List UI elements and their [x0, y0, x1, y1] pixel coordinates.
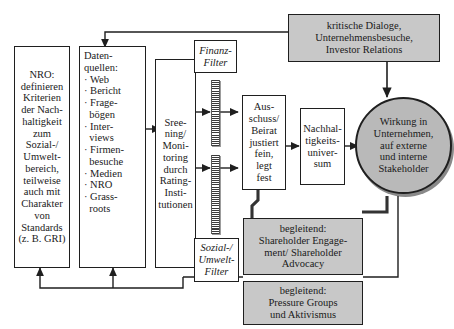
- node-datenquellen-line-0: Daten-: [84, 50, 113, 62]
- node-nro-line-1: definieren: [21, 81, 64, 93]
- sozial-umwelt-filter-bar: [211, 155, 220, 234]
- node-nro-line-5: zum: [33, 128, 51, 140]
- node-datenquellen-line-5: bögen: [84, 109, 115, 121]
- node-finanz-filter-line-0: Finanz-: [199, 45, 232, 57]
- node-universum-line-0: Nachhal-: [303, 123, 341, 135]
- node-nro-line-8: bereich,: [25, 163, 59, 175]
- node-ausschuss-line-2: Beirat: [251, 125, 277, 137]
- node-sozial-filter-line-0: Sozial-/: [200, 242, 232, 254]
- node-sozial-filter-line-1: Umwelt-: [198, 254, 234, 266]
- node-ausschuss-beirat: Aus- schuss/ Beirat justiert fein, legt …: [242, 95, 286, 190]
- node-shareholder-line-1: Shareholder Engage-: [259, 235, 347, 247]
- node-ausschuss-line-3: justiert: [249, 137, 278, 149]
- node-nro-line-12: von: [34, 210, 50, 222]
- node-ausschuss-line-6: fest: [256, 172, 271, 184]
- node-screening-line-1: ning/: [165, 128, 187, 140]
- node-datenquellen-line-4: · Frage-: [84, 97, 118, 109]
- node-universum-line-1: tigkeits-: [305, 135, 339, 147]
- node-datenquellen-line-2: · Web: [84, 74, 109, 86]
- connector-ausschuss-to-shareholder: [252, 190, 258, 219]
- finanz-filter-bar: [211, 80, 220, 146]
- node-nro-line-0: NRO:: [29, 69, 54, 81]
- node-shareholder-engagement: begleitend: Shareholder Engage- ment/ Sh…: [243, 218, 363, 275]
- node-datenquellen-line-7: views: [84, 132, 114, 144]
- node-pressure-line-1: Pressure Groups: [268, 297, 337, 309]
- node-shareholder-line-0: begleitend:: [280, 223, 327, 235]
- node-screening-line-7: Insti-: [164, 187, 186, 199]
- node-pressure-line-2: und Aktivismus: [270, 309, 336, 321]
- node-dialoge-line-0: kritische Dialoge,: [327, 20, 402, 32]
- node-dialoge-line-1: Unternehmensbesuche,: [315, 32, 413, 44]
- node-wirkung-stakeholder: Wirkung in Unternehmen, auf externe und …: [355, 97, 452, 194]
- node-screening-line-8: tutionen: [158, 199, 192, 211]
- node-wirkung-line-3: und interne: [380, 151, 428, 163]
- node-nro-line-9: teilweise: [23, 175, 60, 187]
- node-nro-line-6: Sozial-/: [26, 139, 59, 151]
- node-sozial-umwelt-filter: Sozial-/ Umwelt- Filter: [194, 238, 239, 282]
- node-wirkung-line-1: Unternehmen,: [374, 128, 434, 140]
- node-datenquellen-line-11: · NRO: [84, 179, 112, 191]
- node-shareholder-line-3: Advocacy: [282, 258, 325, 270]
- connector-wirkung-to-pressure: [363, 196, 398, 277]
- node-nro-line-10: auch mit: [24, 186, 60, 198]
- node-screening-line-6: Rating-: [160, 175, 192, 187]
- node-ausschuss-line-4: fein,: [255, 148, 274, 160]
- node-wirkung-line-2: auf externe: [380, 140, 427, 152]
- node-universum-line-3: sum: [314, 158, 332, 170]
- node-sozial-filter-line-2: Filter: [205, 266, 229, 278]
- node-universum-line-2: univer-: [307, 147, 337, 159]
- node-pressure-line-0: begleitend:: [280, 285, 327, 297]
- node-screening-line-0: Sree-: [164, 117, 186, 129]
- node-wirkung-line-0: Wirkung in: [380, 116, 428, 128]
- node-nro-line-2: Kriterien: [23, 92, 61, 104]
- node-nachhaltigkeitsuniversum: Nachhal- tigkeits- univer- sum: [300, 108, 345, 185]
- node-nro-line-13: Standards: [21, 222, 62, 234]
- node-nro-line-7: Umwelt-: [23, 151, 60, 163]
- node-ausschuss-line-5: legt: [256, 160, 272, 172]
- connector-wirkung-to-shareholder: [362, 196, 387, 212]
- node-finanz-filter-line-1: Filter: [204, 57, 228, 69]
- node-nro-line-3: der Nach-: [21, 104, 63, 116]
- node-nro: NRO: definieren Kriterien der Nach- halt…: [14, 46, 70, 268]
- node-kritische-dialoge: kritische Dialoge, Unternehmensbesuche, …: [288, 14, 440, 62]
- node-nro-line-11: Charakter: [21, 198, 62, 210]
- diagram-canvas: NRO: definieren Kriterien der Nach- halt…: [0, 0, 454, 329]
- node-finanz-filter: Finanz- Filter: [194, 40, 237, 73]
- node-datenquellen-line-13: roots: [84, 203, 110, 215]
- node-datenquellen-line-9: besuche: [84, 156, 123, 168]
- node-nro-line-14: (z. B. GRI): [18, 233, 65, 245]
- node-datenquellen-line-3: · Bericht: [84, 85, 121, 97]
- node-ausschuss-line-0: Aus-: [254, 101, 274, 113]
- node-datenquellen-line-8: · Firmen-: [84, 144, 124, 156]
- node-shareholder-line-2: ment/ Shareholder: [264, 247, 341, 259]
- node-datenquellen-line-6: · Inter-: [84, 121, 113, 133]
- node-screening-line-2: Moni-: [162, 140, 188, 152]
- node-datenquellen-line-12: · Grass-: [84, 191, 118, 203]
- node-screening: Sree- ning/ Moni- toring durch Rating- I…: [155, 59, 196, 268]
- node-screening-line-3: toring: [163, 152, 188, 164]
- node-pressure-groups: begleitend: Pressure Groups und Aktivism…: [243, 281, 363, 325]
- node-datenquellen-line-1: quellen:: [84, 62, 118, 74]
- node-screening-line-5: durch: [164, 164, 188, 176]
- node-datenquellen: Daten- quellen: · Web · Bericht · Frage-…: [79, 46, 146, 268]
- node-datenquellen-line-10: · Medien: [84, 168, 122, 180]
- node-nro-line-4: haltigkeit: [22, 116, 62, 128]
- node-wirkung-line-4: Stakeholder: [378, 163, 428, 175]
- node-dialoge-line-2: Investor Relations: [326, 44, 403, 56]
- node-ausschuss-line-1: schuss/: [249, 113, 279, 125]
